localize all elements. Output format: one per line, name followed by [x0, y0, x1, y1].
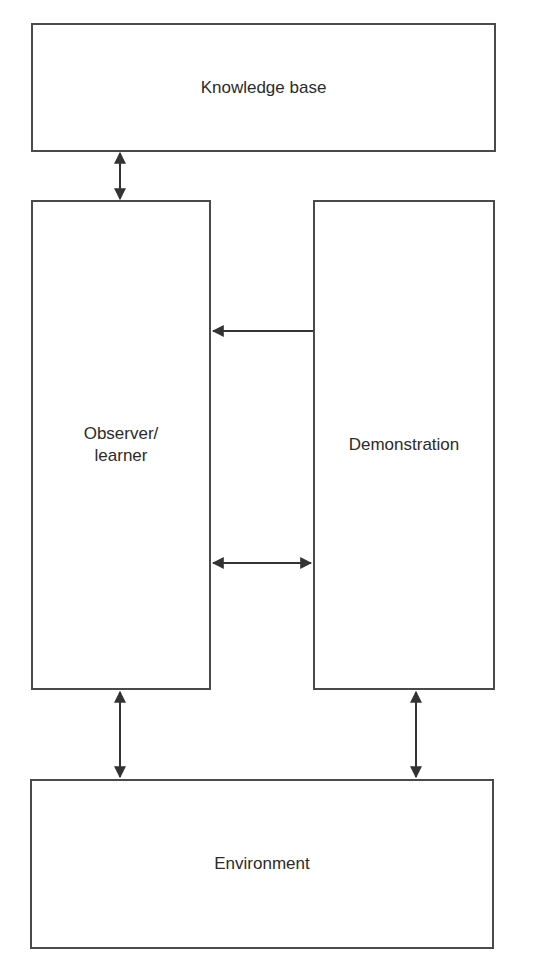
environment-label: Environment — [214, 853, 309, 875]
observer-learner-box: Observer/ learner — [31, 200, 211, 690]
observer-learner-label: Observer/ learner — [84, 423, 159, 467]
demonstration-box: Demonstration — [313, 200, 495, 690]
demonstration-label: Demonstration — [349, 434, 460, 456]
environment-box: Environment — [30, 779, 494, 949]
knowledge-base-box: Knowledge base — [31, 23, 496, 152]
knowledge-base-label: Knowledge base — [201, 77, 327, 99]
